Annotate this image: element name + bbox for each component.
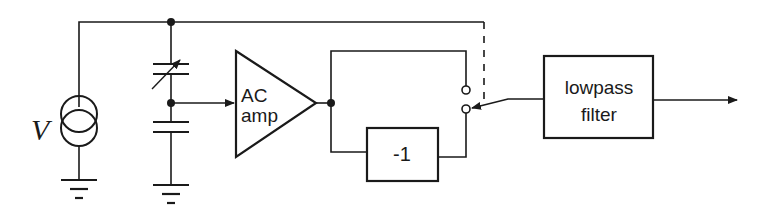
ground-icon — [61, 180, 97, 198]
upper-branch-wire — [331, 51, 466, 103]
switch-arm — [472, 99, 544, 108]
junction-dot — [327, 99, 335, 107]
source-label: V — [31, 113, 53, 146]
circuit-diagram: V AC amp -1 lowpass filter — [0, 0, 760, 217]
lower-branch-wire — [331, 103, 367, 152]
top-wire — [79, 22, 484, 107]
lowpass-label-line2: filter — [581, 104, 618, 125]
inverter-output-wire — [438, 113, 466, 157]
lowpass-label-line1: lowpass — [565, 77, 634, 98]
junction-dot — [167, 18, 175, 26]
inverter-label: -1 — [393, 143, 411, 165]
switch-contact-lower — [462, 105, 470, 113]
ground-icon — [153, 185, 189, 203]
switch-contact-upper — [462, 86, 470, 94]
amp-label-line1: AC — [241, 85, 267, 106]
junction-dot — [167, 99, 175, 107]
amp-label-line2: amp — [241, 105, 278, 126]
fixed-capacitor-icon — [153, 122, 189, 132]
diagram-svg: V AC amp -1 lowpass filter — [0, 0, 760, 217]
